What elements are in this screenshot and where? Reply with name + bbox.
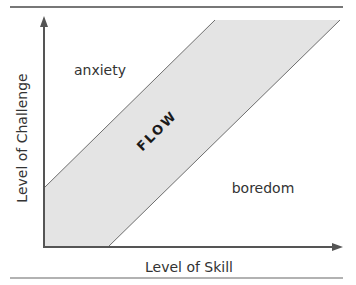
flow-diagram: anxiety boredom FLOW Level of Challenge … — [0, 0, 356, 285]
flow-band — [44, 20, 340, 247]
y-axis-arrow-icon — [40, 16, 48, 27]
boredom-label: boredom — [232, 180, 295, 196]
x-axis-arrow-icon — [332, 243, 343, 251]
anxiety-label: anxiety — [74, 62, 126, 78]
y-axis-label: Level of Challenge — [14, 73, 30, 202]
x-axis-label: Level of Skill — [145, 259, 233, 275]
